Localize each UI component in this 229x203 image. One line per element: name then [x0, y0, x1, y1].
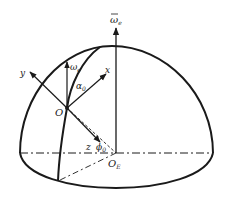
z-axis-label: z [85, 142, 91, 152]
alpha-angle-label: α0 [76, 81, 86, 92]
earth-center-label: OE [108, 158, 121, 170]
global-earth-rate-label: ωe [110, 14, 122, 26]
origin-point [65, 106, 69, 110]
x-axis-arrow [67, 74, 106, 108]
hemisphere-diagram: ωe ωe x y z O OE α0 ϕ0 [0, 0, 229, 203]
origin-label: O [55, 107, 63, 118]
diagram-canvas: ωe ωe x y z O OE α0 ϕ0 [0, 0, 229, 203]
local-earth-rate-label: ωe [70, 62, 81, 73]
y-axis-label: y [19, 68, 26, 78]
x-axis-label: x [105, 65, 110, 75]
equator-front-arc [20, 153, 213, 188]
phi-angle-label: ϕ0 [96, 142, 106, 153]
